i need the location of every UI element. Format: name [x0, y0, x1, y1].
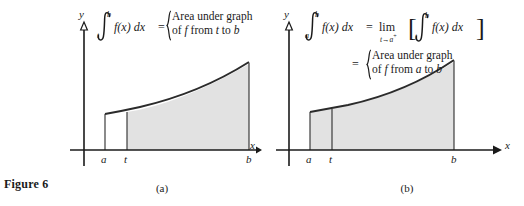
brace-f-a: f: [184, 24, 187, 36]
x-axis-label-a: x: [250, 139, 255, 151]
brace-to-word-a: to: [222, 24, 231, 36]
tick-label-a-a: a: [101, 153, 107, 165]
tick-label-b-t: t: [329, 153, 332, 165]
shaded-region-a: [127, 64, 249, 150]
y-axis-arrow-b: [286, 22, 293, 30]
brace-line1-b: Area under graph: [372, 49, 452, 62]
brace-line1-a: Area under graph: [172, 10, 252, 23]
brace-f-b: f: [384, 63, 387, 75]
equals-sign-b: =: [366, 20, 373, 35]
inner-integral-lower-limit-b: t: [415, 32, 417, 41]
inner-integrand-b: f(x) dx: [432, 20, 463, 35]
y-axis-label-b: y: [284, 8, 289, 20]
panel-a: y x a t b b t f(x) dx = Area under graph…: [0, 0, 262, 206]
brace-line2-b: of f from a to b: [372, 63, 442, 76]
integral-upper-limit-a: b: [107, 10, 111, 19]
x-axis-arrow-b: [493, 146, 502, 155]
integrand-b: f(x) dx: [322, 20, 353, 35]
equation-b-line1: b a f(x) dx = lim t→a+ [ b t f(x) dx ]: [304, 11, 322, 43]
brace-from-a: t: [216, 24, 219, 36]
limit-subscript-b: t→a+: [380, 33, 397, 44]
integral-lower-limit-a: t: [97, 31, 99, 40]
bracket-close-b: ]: [476, 13, 485, 43]
tick-label-b-a: a: [306, 153, 312, 165]
equals-sign-a: =: [158, 20, 165, 35]
panel-label-a: (a): [142, 182, 182, 194]
integral-lower-limit-b: a: [305, 31, 309, 40]
inner-integral-upper-limit-b: b: [425, 11, 429, 20]
integral-upper-limit-b: b: [315, 10, 319, 19]
y-axis-label-a: y: [79, 8, 84, 20]
equation-a: b t f(x) dx =: [96, 11, 164, 41]
integrand-a: f(x) dx: [114, 20, 145, 35]
brace-of-a: of: [172, 24, 182, 36]
brace-from-word-a: from: [191, 24, 213, 36]
tick-label-a-t: t: [124, 153, 127, 165]
panel-b: y x a t b b a f(x) dx = lim t→a+ [ b t f…: [262, 0, 524, 206]
brace-of-b: of: [372, 63, 382, 75]
brace-to-word-b: to: [424, 63, 433, 75]
brace-to-a: b: [234, 24, 240, 36]
brace-from-b: a: [416, 63, 422, 75]
brace-to-b: b: [436, 63, 442, 75]
equals-sign-2-b: =: [352, 57, 359, 72]
tick-label-a-b: b: [246, 153, 252, 165]
brace-from-word-b: from: [391, 63, 413, 75]
x-axis-label-b: x: [505, 139, 510, 151]
tick-label-b-b: b: [451, 153, 457, 165]
brace-line2-a: of f from t to b: [172, 24, 239, 37]
panel-label-b: (b): [387, 182, 427, 194]
y-axis-arrow-a: [81, 22, 88, 30]
